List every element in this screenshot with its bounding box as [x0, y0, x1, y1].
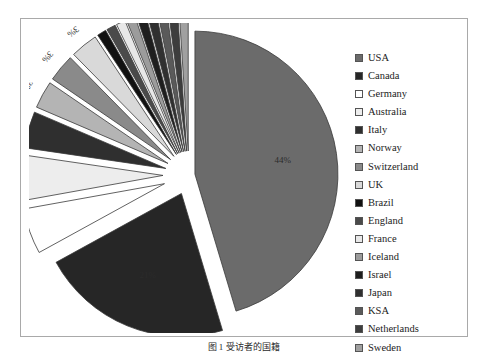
- legend-item-label: Norway: [368, 139, 402, 157]
- legend-item[interactable]: Germany: [355, 85, 465, 103]
- legend-swatch-icon: [355, 199, 363, 207]
- legend-swatch-icon: [355, 307, 363, 315]
- legend-item[interactable]: England: [355, 212, 465, 230]
- legend-item-label: Germany: [368, 85, 407, 103]
- figure-container: 44%21%5%5%4%3%3%3%1%1%1%1%1%1%1%1%1% USA…: [0, 0, 487, 356]
- legend-item-label: Switzerland: [368, 158, 418, 176]
- legend-swatch-icon: [355, 54, 363, 62]
- pie-chart: 44%21%5%5%4%3%3%3%1%1%1%1%1%1%1%1%1%: [29, 23, 359, 333]
- legend-swatch-icon: [355, 289, 363, 297]
- legend-swatch-icon: [355, 271, 363, 279]
- legend-item-label: UK: [368, 176, 383, 194]
- legend-item[interactable]: KSA: [355, 302, 465, 320]
- legend-item[interactable]: USA: [355, 49, 465, 67]
- legend-swatch-icon: [355, 108, 363, 116]
- legend-item-label: Israel: [368, 266, 391, 284]
- pie-slice-group: [29, 23, 338, 333]
- pie-slice-value-label: 3%: [65, 24, 81, 40]
- pie-slice-value-label: 3%: [29, 79, 35, 95]
- legend-swatch-icon: [355, 235, 363, 243]
- legend-swatch-icon: [355, 181, 363, 189]
- legend-item[interactable]: Brazil: [355, 194, 465, 212]
- chart-frame: 44%21%5%5%4%3%3%3%1%1%1%1%1%1%1%1%1% USA…: [20, 18, 468, 337]
- legend-item[interactable]: Switzerland: [355, 158, 465, 176]
- legend-item[interactable]: Japan: [355, 284, 465, 302]
- legend-item[interactable]: Israel: [355, 266, 465, 284]
- legend-item[interactable]: Italy: [355, 121, 465, 139]
- legend-item[interactable]: France: [355, 230, 465, 248]
- legend-item-label: Brazil: [368, 194, 394, 212]
- pie-slice[interactable]: [195, 31, 338, 311]
- legend-swatch-icon: [355, 217, 363, 225]
- legend-swatch-icon: [355, 72, 363, 80]
- legend-item[interactable]: Canada: [355, 67, 465, 85]
- pie-slice-value-label: 21%: [140, 270, 157, 280]
- figure-caption: 图 1 受访者的国籍: [0, 340, 487, 356]
- legend-item-label: USA: [368, 49, 389, 67]
- legend-item-label: Netherlands: [368, 320, 419, 338]
- legend-item[interactable]: Australia: [355, 103, 465, 121]
- legend-item-label: KSA: [368, 302, 389, 320]
- legend-item[interactable]: Norway: [355, 139, 465, 157]
- legend-swatch-icon: [355, 126, 363, 134]
- legend-item-label: England: [368, 212, 403, 230]
- legend-swatch-icon: [355, 163, 363, 171]
- legend-swatch-icon: [355, 90, 363, 98]
- legend-item[interactable]: Iceland: [355, 248, 465, 266]
- legend-swatch-icon: [355, 145, 363, 153]
- legend-item-label: Iceland: [368, 248, 399, 266]
- legend-item[interactable]: Netherlands: [355, 320, 465, 338]
- chart-legend: USACanadaGermanyAustraliaItalyNorwaySwit…: [355, 49, 465, 356]
- legend-item-label: France: [368, 230, 397, 248]
- legend-swatch-icon: [355, 325, 363, 333]
- legend-item[interactable]: UK: [355, 176, 465, 194]
- pie-slice-value-label: 44%: [274, 155, 291, 165]
- legend-swatch-icon: [355, 253, 363, 261]
- legend-item-label: Japan: [368, 284, 392, 302]
- pie-slice-value-label: 3%: [40, 49, 56, 65]
- pie-slice-value-label: 1%: [85, 23, 101, 26]
- legend-item-label: Canada: [368, 67, 400, 85]
- legend-item-label: Australia: [368, 103, 407, 121]
- legend-item-label: Italy: [368, 121, 387, 139]
